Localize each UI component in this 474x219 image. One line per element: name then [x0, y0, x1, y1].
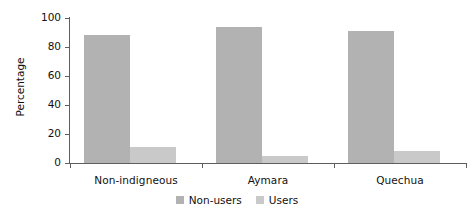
bar-non-users-aymara	[216, 27, 262, 163]
bar-users-aymara	[262, 156, 308, 163]
y-axis-tick-label: 80	[48, 40, 61, 52]
y-axis-tick-mark	[65, 76, 70, 77]
x-axis-tick-mark	[334, 163, 335, 168]
legend-item-non-users[interactable]: Non-users	[176, 194, 242, 206]
y-axis-tick-label: 60	[48, 69, 61, 81]
bar-users-quechua	[394, 151, 440, 163]
y-axis-tick-label: 40	[48, 98, 61, 110]
y-axis-title-label: Percentage	[14, 57, 26, 116]
x-axis-category-label: Non-indigneous	[94, 174, 178, 186]
legend-swatch-icon	[176, 196, 184, 204]
bar-non-users-non-indigneous	[84, 35, 130, 163]
legend-label: Non-users	[189, 194, 242, 206]
y-axis-tick-mark	[65, 105, 70, 106]
bar-users-non-indigneous	[130, 147, 176, 163]
legend-label: Users	[269, 194, 298, 206]
bar-chart: Percentage 020406080100 Non-usersUsers N…	[0, 0, 474, 219]
x-axis-category-label: Aymara	[248, 174, 289, 186]
y-axis-tick-mark	[65, 47, 70, 48]
plot-area: 020406080100	[70, 18, 466, 163]
x-axis-tick-mark	[202, 163, 203, 168]
x-axis-line	[69, 163, 467, 164]
chart-legend: Non-usersUsers	[0, 194, 474, 206]
y-axis-title: Percentage	[12, 12, 28, 162]
x-axis-category-label: Quechua	[376, 174, 424, 186]
legend-swatch-icon	[256, 196, 264, 204]
legend-item-users[interactable]: Users	[256, 194, 298, 206]
y-axis-tick-mark	[65, 134, 70, 135]
y-axis-tick-label: 0	[54, 156, 61, 168]
x-axis-tick-mark	[70, 163, 71, 168]
y-axis-tick-mark	[65, 18, 70, 19]
y-axis-tick-label: 20	[48, 127, 61, 139]
y-axis-tick-label: 100	[41, 11, 61, 23]
bar-non-users-quechua	[348, 31, 394, 163]
x-axis-tick-mark	[466, 163, 467, 168]
